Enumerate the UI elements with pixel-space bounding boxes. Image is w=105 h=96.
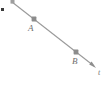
point-b-marker bbox=[74, 50, 79, 55]
corner-dot bbox=[1, 8, 4, 11]
t-axis-line bbox=[12, 2, 94, 66]
axis-start-marker bbox=[11, 0, 15, 4]
point-a-label: A bbox=[28, 24, 34, 33]
point-a-marker bbox=[32, 17, 37, 22]
axis-diagram-svg bbox=[0, 0, 105, 96]
t-axis-label: t bbox=[98, 69, 100, 77]
point-b-label: B bbox=[72, 57, 78, 66]
geometry-figure: A B t bbox=[0, 0, 105, 96]
